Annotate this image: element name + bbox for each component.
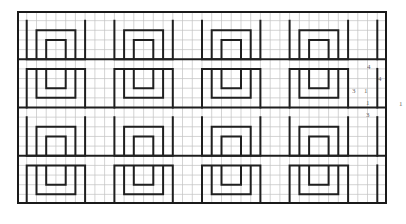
annotation-c: 3 [352, 88, 356, 95]
meander-pattern-figure [17, 11, 387, 204]
annotation-g: 1 [399, 101, 403, 108]
annotation-f: 3 [366, 112, 370, 119]
annotation-b: 4 [378, 76, 382, 83]
figure-page: 4 4 3 1 1 3 1 [0, 0, 406, 224]
annotation-d: 1 [364, 88, 368, 95]
annotation-e: 1 [366, 100, 370, 107]
annotation-a: 4 [367, 64, 371, 71]
meander-pattern-svg [17, 11, 387, 204]
